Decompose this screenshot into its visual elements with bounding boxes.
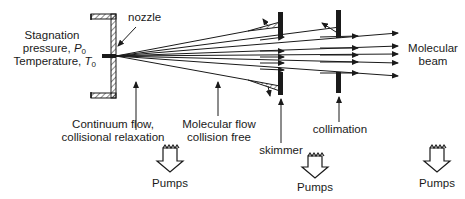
continuum-flow-label-line1: Continuum flow,: [58, 118, 168, 131]
pressure-symbol: P: [74, 42, 82, 54]
skimmer-label: skimmer: [255, 144, 307, 157]
beam-rays: [116, 27, 398, 80]
pumps-label-3: Pumps: [415, 177, 459, 190]
pumps-label-1: Pumps: [148, 177, 192, 190]
molecular-beam-label-line1: Molecular: [402, 42, 464, 55]
pumps-label-2: Pumps: [293, 181, 337, 194]
temperature-symbol: T: [85, 55, 92, 67]
temperature-label: Temperature, T0: [0, 55, 96, 71]
pump-arrow-icon: [157, 145, 183, 172]
pump-arrow-icon: [424, 145, 450, 172]
nozzle-pointer-arrow: [118, 27, 136, 46]
continuum-flow-label-line2: collisional relaxation: [58, 131, 168, 144]
pressure-text: pressure,: [23, 42, 71, 54]
molecular-flow-label-line1: Molecular flow: [174, 118, 264, 131]
nozzle: [102, 54, 116, 58]
collimation-label: collimation: [307, 123, 373, 136]
skimmer: [248, 12, 283, 96]
temperature-subscript: 0: [92, 60, 96, 69]
collimator: [322, 10, 341, 93]
molecular-flow-label-line2: collision free: [174, 131, 264, 144]
temperature-text: Temperature,: [14, 55, 82, 67]
stagnation-label: Stagnation: [20, 29, 84, 42]
nozzle-label: nozzle: [128, 11, 161, 24]
molecular-beam-label-line2: beam: [402, 55, 464, 68]
